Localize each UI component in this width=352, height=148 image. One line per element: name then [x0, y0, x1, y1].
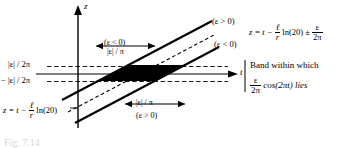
z-axis-arrowhead: [74, 5, 82, 15]
equation-left-ln: ln(20): [36, 105, 57, 115]
span-upper-measure-denominator: π: [120, 47, 124, 56]
upper-line-label: (ε > 0): [212, 17, 235, 26]
band-intersection-left: [62, 21, 219, 123]
z-axis-label: z: [84, 2, 88, 11]
equation-right-eps-over-2pi: ε 2π: [312, 23, 323, 41]
band-note-line1: Band within which: [250, 61, 319, 70]
y-tick-label-negative: − |ε| / 2π: [1, 76, 30, 85]
figure-caption: Fig. 7.14: [4, 138, 40, 148]
span-upper-top-label: (ε < 0): [104, 39, 125, 47]
y-tick-negative-sign: −: [1, 75, 8, 85]
band-note-line2: ε 2π cos(2πt) lies: [250, 76, 308, 95]
span-upper-arrow-left: [96, 43, 103, 49]
equation-right-r: r: [275, 33, 281, 42]
upper-envelope-line: [62, 21, 212, 100]
span-lower-arrow-right: [178, 101, 185, 107]
t-axis-arrowhead: [228, 70, 238, 77]
equation-right: z = t − ℓ r ln(20) ± ε 2π: [249, 23, 323, 41]
equation-right-ln: ln(20): [282, 27, 303, 37]
equation-right-lhs: z = t −: [249, 27, 273, 37]
band-intersection-group: [62, 21, 219, 123]
span-lower-measure-denominator: π: [149, 98, 153, 107]
band-note-expression: cos(2πt) lies: [263, 80, 307, 90]
figure-canvas: z t |ε| / 2π − |ε| / 2π (ε > 0) (ε < 0) …: [0, 0, 352, 148]
span-upper-measure-label: |ε| / π: [107, 48, 124, 56]
equation-right-plusminus: ±: [305, 27, 310, 37]
y-tick-positive-symbol: |ε|: [8, 59, 15, 69]
band-note-eps-over-2pi: ε 2π: [250, 76, 261, 95]
equation-left-r: r: [29, 111, 35, 120]
y-tick-positive-slash: /: [15, 59, 22, 69]
y-tick-negative-symbol: |ε|: [8, 75, 15, 85]
t-axis-label: t: [240, 68, 243, 77]
y-tick-negative-slash: /: [15, 75, 22, 85]
equation-right-ell-over-r: ℓ r: [275, 23, 281, 41]
y-tick-label-positive: |ε| / 2π: [8, 60, 30, 69]
lower-line-label: (ε < 0): [214, 40, 237, 49]
equation-left-ell-over-r: ℓ r: [29, 101, 35, 119]
span-lower-arrow-left: [125, 101, 132, 107]
equation-left: z = t − ℓ r ln(20): [3, 101, 57, 119]
equation-left-lhs: z = t −: [3, 105, 27, 115]
band-note-2pi: 2π: [250, 86, 261, 95]
span-lower-below-label: (ε > 0): [136, 112, 157, 120]
y-tick-positive-denominator: 2π: [22, 59, 31, 69]
span-upper-arrow-right: [148, 43, 155, 49]
span-lower-measure-label: |ε| / π: [136, 99, 153, 107]
equation-right-2pi: 2π: [312, 33, 323, 42]
y-tick-negative-denominator: 2π: [22, 75, 31, 85]
